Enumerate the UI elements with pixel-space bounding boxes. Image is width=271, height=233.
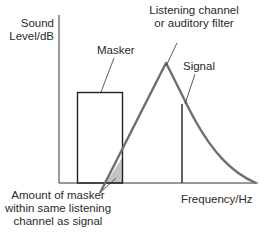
y-axis-label: Sound Level/dB xyxy=(4,17,54,43)
filter-label-line1: Listening channel xyxy=(139,4,249,17)
signal-label: Signal xyxy=(183,60,215,73)
masker-leader xyxy=(101,58,114,92)
masker-label: Masker xyxy=(97,44,135,57)
overlap-region xyxy=(106,158,122,183)
y-axis-label-line1: Sound xyxy=(4,17,54,30)
auditory-filter-curve xyxy=(100,63,256,193)
overlap-label: Amount of masker within same listening c… xyxy=(2,189,114,228)
filter-label: Listening channel or auditory filter xyxy=(139,4,249,30)
overlap-label-line2: within same listening xyxy=(2,202,114,215)
overlap-label-line3: channel as signal xyxy=(2,215,114,228)
y-axis-label-line2: Level/dB xyxy=(4,30,54,43)
signal-leader xyxy=(185,74,195,104)
overlap-label-line1: Amount of masker xyxy=(2,189,114,202)
x-axis-label: Frequency/Hz xyxy=(181,193,253,206)
filter-leader xyxy=(166,43,177,66)
masking-diagram: Sound Level/dB Masker Listening channel … xyxy=(0,0,271,233)
filter-label-line2: or auditory filter xyxy=(139,17,249,30)
